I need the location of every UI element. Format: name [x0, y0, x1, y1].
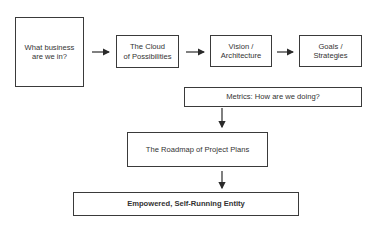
node-cloud-of-possibilities: The Cloudof Possibilities [116, 35, 179, 68]
node-goals-strategies: Goals /Strategies [299, 35, 362, 67]
node-roadmap: The Roadmap of Project Plans [127, 132, 268, 167]
node-vision-architecture: Vision /Architecture [210, 35, 272, 67]
node-empowered-entity: Empowered, Self-Running Entity [73, 192, 299, 216]
node-line: of Possibilities [123, 52, 171, 61]
node-label: Empowered, Self-Running Entity [127, 199, 245, 209]
node-line: The Cloud [130, 42, 165, 51]
node-label: The Roadmap of Project Plans [146, 145, 249, 155]
node-what-business: What businessare we in? [15, 17, 84, 87]
node-line: What business [25, 43, 75, 52]
node-line: Vision / [229, 42, 254, 51]
node-line: Goals / [318, 42, 342, 51]
node-label: Metrics: How are we doing? [226, 92, 320, 102]
node-line: Architecture [221, 51, 262, 60]
node-line: are we in? [32, 52, 67, 61]
node-line: Strategies [313, 51, 347, 60]
node-metrics: Metrics: How are we doing? [184, 87, 362, 107]
